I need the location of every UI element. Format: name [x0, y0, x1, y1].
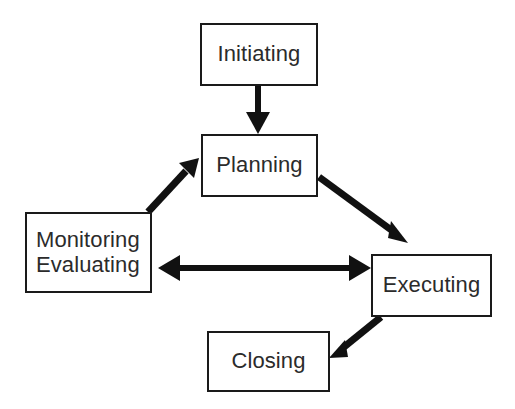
node-executing[interactable]: Executing [371, 254, 492, 317]
process-flow-diagram: Initiating Planning Monitoring Evaluatin… [0, 0, 515, 409]
edge-monitoring-to-planning [148, 158, 199, 212]
edge-executing-to-closing [329, 317, 381, 358]
edge-monitoring-to-executing [158, 255, 371, 281]
node-planning[interactable]: Planning [201, 134, 318, 197]
node-monitoring-evaluating[interactable]: Monitoring Evaluating [25, 212, 152, 293]
node-closing[interactable]: Closing [207, 331, 330, 392]
node-executing-label: Executing [383, 273, 481, 298]
node-planning-label: Planning [216, 153, 302, 178]
edge-initiating-to-planning [246, 86, 270, 134]
edge-planning-to-executing [319, 177, 408, 243]
node-monitoring-evaluating-label: Monitoring Evaluating [36, 228, 140, 277]
node-initiating-label: Initiating [218, 42, 301, 67]
node-initiating[interactable]: Initiating [200, 23, 318, 86]
node-closing-label: Closing [231, 349, 305, 374]
